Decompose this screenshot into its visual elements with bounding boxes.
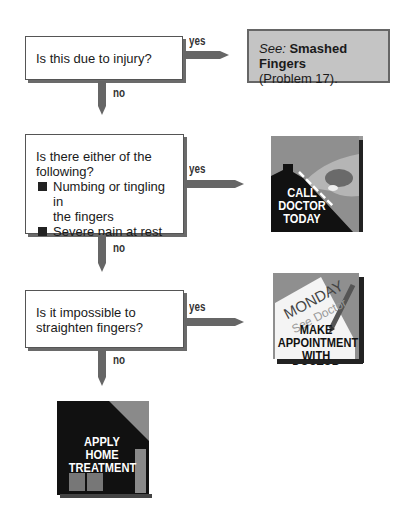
no-label: no xyxy=(113,241,125,255)
appointment-icon: MONDAY See Doctor MAKE APPOINTMENT WITH … xyxy=(271,271,365,365)
yes-arrow xyxy=(184,51,220,59)
yes-label: yes xyxy=(189,34,205,48)
home-treatment-icon: APPLY HOME TREATMENT xyxy=(57,401,152,498)
no-arrow xyxy=(98,350,106,377)
list-item: Severe pain at rest xyxy=(36,224,177,239)
arrow-head-icon xyxy=(98,377,106,386)
no-arrow xyxy=(98,81,106,106)
call-doctor-icon: CALL DOCTOR TODAY xyxy=(271,136,363,232)
question-text: Is this due to injury? xyxy=(36,51,176,66)
list-item: Numbing or tingling inthe fingers xyxy=(36,179,177,224)
arrow-head-icon xyxy=(235,180,244,188)
bullet-square-icon xyxy=(38,182,47,191)
problem-reference: (Problem 17). xyxy=(259,71,380,86)
arrow-head-icon xyxy=(98,263,106,272)
question-text: Is it impossible to xyxy=(36,305,177,320)
question-box-injury: Is this due to injury? xyxy=(25,36,183,80)
question-text: straighten fingers? xyxy=(36,320,177,335)
no-label: no xyxy=(113,353,125,367)
icon-label: WITH DOCTOR xyxy=(278,349,355,365)
arrow-head-icon xyxy=(98,106,106,115)
yes-label: yes xyxy=(189,300,205,314)
icon-label: TODAY xyxy=(276,212,329,225)
arrow-head-icon xyxy=(235,318,244,326)
bullet-square-icon xyxy=(38,227,47,236)
question-text: Is there either of the xyxy=(36,149,177,164)
yes-arrow xyxy=(185,318,235,326)
question-box-symptoms: Is there either of the following? Numbin… xyxy=(25,134,184,234)
question-text: following? xyxy=(36,164,177,179)
icon-label: TREATMENT xyxy=(69,461,135,474)
arrow-head-icon xyxy=(220,51,229,59)
result-box-smashed-fingers: See: Smashed Fingers (Problem 17). xyxy=(247,29,390,83)
yes-arrow xyxy=(185,180,235,188)
symptom-list: Numbing or tingling inthe fingers Severe… xyxy=(36,179,177,239)
question-box-straighten: Is it impossible to straighten fingers? xyxy=(25,290,184,348)
yes-label: yes xyxy=(189,162,205,176)
no-label: no xyxy=(113,86,125,100)
see-prefix: See: xyxy=(259,41,286,56)
no-arrow xyxy=(98,235,106,263)
